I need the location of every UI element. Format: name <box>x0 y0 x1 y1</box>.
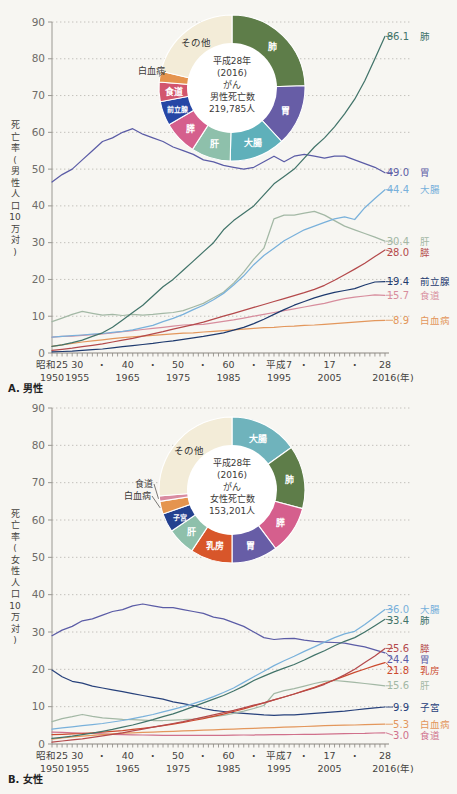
donut-label-stomach: 胃 <box>246 541 255 551</box>
svg-text:対: 対 <box>11 234 20 245</box>
end-value-prostate: 19.4 <box>387 276 409 287</box>
end-value-lung: 33.4 <box>387 615 409 626</box>
y-tick-label: 90 <box>32 402 45 414</box>
y-tick-label: 60 <box>32 514 45 526</box>
y-tick-label: 30 <box>32 236 45 248</box>
y-tick-label: 20 <box>32 663 45 675</box>
svg-text:率: 率 <box>11 531 20 542</box>
x-year-label: 1950 <box>40 372 64 383</box>
end-name-liver: 肝 <box>420 680 430 691</box>
x-era-label: 昭和25 <box>36 750 68 761</box>
end-name-esophagus: 食道 <box>420 730 440 741</box>
svg-text:女: 女 <box>11 554 20 565</box>
end-name-colon: 大腸 <box>420 184 440 195</box>
donut-label-leukemia: 白血病 <box>124 490 151 501</box>
end-value-esophagus: 3.0 <box>393 730 409 741</box>
svg-text:口: 口 <box>11 589 20 599</box>
end-label-leader <box>386 733 393 735</box>
end-value-liver: 15.6 <box>387 680 409 691</box>
y-tick-label: 0 <box>38 738 45 750</box>
end-name-pancreas: 膵 <box>420 247 430 258</box>
donut-label-esophagus: 食道 <box>164 86 183 97</box>
x-era-label: ・ <box>148 750 158 761</box>
x-era-label: ・ <box>97 359 107 370</box>
end-name-leukemia: 白血病 <box>420 315 450 326</box>
x-era-label: ・ <box>249 750 259 761</box>
x-era-label: 昭和25 <box>36 359 68 370</box>
end-value-leukemia: 5.3 <box>393 719 409 730</box>
y-tick-label: 50 <box>32 163 45 175</box>
svg-text:(: ( <box>13 543 17 553</box>
x-era-label: 28 <box>379 750 391 761</box>
y-tick-label: 60 <box>32 126 45 138</box>
x-era-label: 30 <box>71 750 83 761</box>
x-era-label: ・ <box>350 750 360 761</box>
donut-label-colon: 大腸 <box>249 433 267 444</box>
x-era-label: 平成7 <box>266 359 292 370</box>
series-line-pancreas <box>52 648 385 742</box>
donut-label-uterus: 子宮 <box>173 513 187 522</box>
y-tick-label: 90 <box>32 16 45 28</box>
donut-center-text: がん <box>223 79 241 90</box>
x-year-label: 1950 <box>40 763 64 774</box>
svg-text:10: 10 <box>9 212 21 222</box>
y-tick-label: 0 <box>38 347 45 359</box>
donut-center-text: 女性死亡数 <box>210 493 255 504</box>
donut-center-text: がん <box>223 481 241 492</box>
x-year-label: 1975 <box>166 763 190 774</box>
x-era-label: 30 <box>71 359 83 370</box>
x-era-label: ・ <box>299 359 309 370</box>
donut-chart: 大腸肺膵胃乳房肝子宮その他平成28年(2016)がん女性死亡数153,201人白… <box>124 417 305 563</box>
x-era-label: 60 <box>223 750 235 761</box>
end-value-stomach: 24.4 <box>387 654 409 665</box>
end-name-lung: 肺 <box>420 615 430 626</box>
x-year-label: 1955 <box>65 372 89 383</box>
x-era-label: 40 <box>122 359 134 370</box>
donut-center-text: 153,201人 <box>209 506 255 516</box>
svg-text:性: 性 <box>11 565 20 576</box>
end-value-breast: 21.8 <box>387 665 409 676</box>
x-era-label: ・ <box>198 750 208 761</box>
x-era-label: ・ <box>299 750 309 761</box>
end-value-colon: 44.4 <box>387 184 409 195</box>
x-year-label: 1985 <box>216 763 240 774</box>
y-tick-label: 70 <box>32 89 45 101</box>
y-tick-label: 10 <box>32 310 45 322</box>
y-axis-title: 死亡率(女性人口10万対) <box>9 509 21 646</box>
donut-center-text: 平成28年 <box>213 457 251 468</box>
x-era-label: 17 <box>323 359 335 370</box>
x-era-label: ・ <box>198 359 208 370</box>
y-tick-label: 20 <box>32 273 45 285</box>
donut-center-text: (2016) <box>217 68 247 78</box>
end-name-prostate: 前立腺 <box>420 276 450 287</box>
svg-text:万: 万 <box>11 224 20 234</box>
end-value-liver: 30.4 <box>387 236 409 247</box>
y-tick-label: 80 <box>32 52 45 64</box>
end-name-uterus: 子宮 <box>420 702 440 713</box>
x-era-label: 28 <box>379 359 391 370</box>
female-mortality-chart: 0102030405060708090昭和2530・40・50・60・平成7・1… <box>0 398 457 794</box>
end-value-colon: 36.0 <box>387 604 409 615</box>
svg-text:死: 死 <box>11 509 20 519</box>
end-value-leukemia: 8.9 <box>393 315 409 326</box>
donut-label-lung: 肺 <box>285 474 294 485</box>
x-era-label: ・ <box>148 359 158 370</box>
svg-text:(: ( <box>13 155 17 165</box>
end-value-uterus: 9.9 <box>393 702 409 713</box>
donut-label-prostate: 前立腺 <box>167 105 189 114</box>
donut-label-liver: 肝 <box>210 139 219 149</box>
end-name-esophagus: 食道 <box>420 290 440 301</box>
donut-label-pancreas: 膵 <box>276 517 285 528</box>
x-era-label: ・ <box>249 359 259 370</box>
donut-chart: 肺胃大腸肝膵前立腺食道その他平成28年(2016)がん男性死亡数219,785人… <box>138 15 305 161</box>
donut-label-esophagus: 食道 <box>135 478 153 489</box>
end-value-stomach: 49.0 <box>387 167 409 178</box>
panel-label: B. 女性 <box>8 773 43 785</box>
end-value-pancreas: 28.0 <box>387 247 409 258</box>
donut-label-colon: 大腸 <box>244 137 262 148</box>
x-era-label: 50 <box>172 750 184 761</box>
svg-text:性: 性 <box>11 177 20 188</box>
svg-text:万: 万 <box>11 612 20 622</box>
x-year-label: 1985 <box>216 372 240 383</box>
end-name-lung: 肺 <box>420 31 430 42</box>
